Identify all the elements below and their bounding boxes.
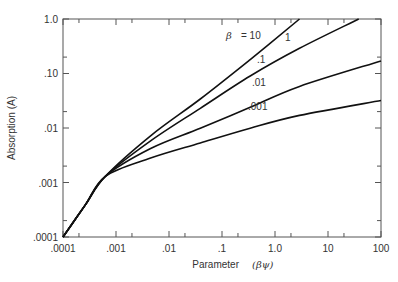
x-tick-label: 1.0 (268, 243, 282, 254)
y-tick-label: .001 (39, 178, 59, 189)
x-tick-label: 100 (373, 243, 390, 254)
curve-label-1: 1 (285, 32, 291, 43)
y-axis-title: Absorption (A) (6, 96, 17, 160)
curve-label-0.01: .01 (252, 77, 266, 88)
curve-label-0.001: .001 (248, 101, 268, 112)
curve-series-0 (63, 19, 300, 237)
x-tick-label: .001 (106, 243, 126, 254)
axis-ticks (63, 19, 381, 237)
plot-frame (63, 19, 381, 237)
y-axis-tick-labels: 1.0 .10 .01 .001 .0001 (33, 14, 58, 243)
curve-series-3 (63, 101, 381, 238)
y-tick-label: .0001 (33, 232, 58, 243)
curve-label-0.1: .1 (257, 54, 266, 65)
x-axis-symbol: (βψ) (252, 259, 274, 270)
y-tick-label: .10 (44, 68, 58, 79)
x-tick-label: .01 (162, 243, 176, 254)
x-tick-label: .0001 (50, 243, 75, 254)
x-axis-tick-labels: .0001 .001 .01 .1 1.0 10 100 (50, 243, 389, 254)
x-axis-title: Parameter (192, 259, 239, 270)
curve-series-1 (63, 19, 359, 237)
curves (63, 19, 381, 237)
y-tick-label: 1.0 (44, 14, 58, 25)
beta-label: β (225, 30, 232, 41)
curve-label-10: = 10 (241, 30, 261, 41)
y-tick-label: .01 (44, 123, 58, 134)
curve-series-2 (63, 61, 381, 237)
x-tick-label: 10 (322, 243, 334, 254)
x-tick-label: .1 (218, 243, 227, 254)
absorption-chart: 1.0 .10 .01 .001 .0001 .0001 .001 .01 .1… (0, 0, 398, 282)
